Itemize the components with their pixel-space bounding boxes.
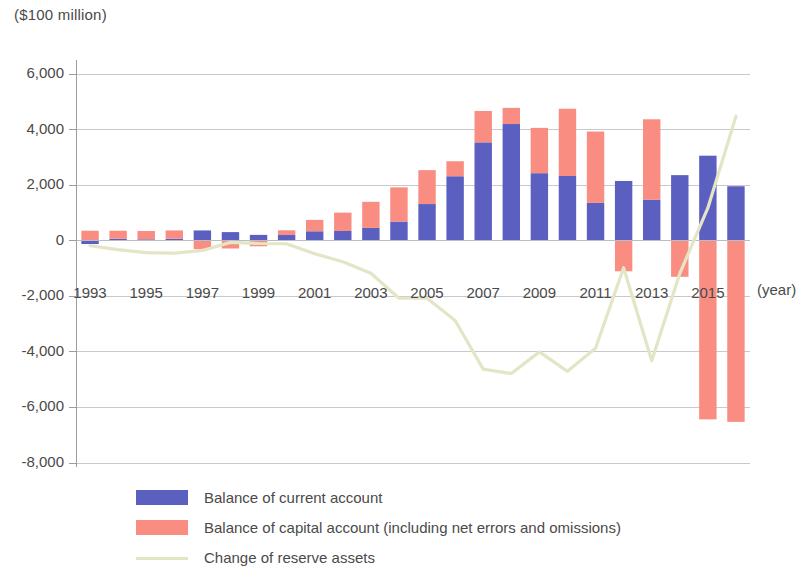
bar-segment — [390, 187, 407, 221]
bar-segment — [109, 231, 126, 239]
bar-segment — [306, 220, 323, 231]
legend-label: Balance of capital account (including ne… — [204, 519, 621, 536]
legend-label: Change of reserve assets — [204, 549, 375, 566]
y-axis-tick-label: -6,000 — [2, 397, 64, 414]
bar-series-group — [76, 108, 750, 422]
bar-segment — [727, 186, 744, 240]
y-axis-tick-label: 2,000 — [2, 175, 64, 192]
bar-segment — [446, 161, 463, 176]
bar-segment — [138, 231, 155, 239]
bar-segment — [390, 222, 407, 241]
bar-segment — [699, 241, 716, 420]
y-axis-tick-label: -4,000 — [2, 342, 64, 359]
x-axis-tick-label: 2003 — [341, 284, 401, 301]
legend-swatch-bar — [136, 490, 188, 505]
bar-segment — [306, 231, 323, 240]
bar-segment — [418, 170, 435, 204]
bar-segment — [250, 235, 267, 241]
bar-segment — [278, 235, 295, 241]
bar-segment — [643, 119, 660, 199]
bar-segment — [81, 231, 98, 241]
reserve-assets-line — [90, 116, 736, 373]
y-axis-tick-label: -8,000 — [2, 453, 64, 470]
bar-segment — [559, 176, 576, 241]
x-axis-tick-label: 1997 — [172, 284, 232, 301]
bar-segment — [587, 203, 604, 241]
legend-item: Balance of current account — [136, 485, 776, 510]
x-axis-tick-label: 2007 — [453, 284, 513, 301]
bar-segment — [222, 232, 239, 241]
bar-segment — [615, 181, 632, 241]
bar-segment — [166, 230, 183, 238]
chart-legend: Balance of current accountBalance of cap… — [136, 485, 776, 568]
line-series-group — [90, 116, 736, 373]
bar-segment — [531, 173, 548, 241]
legend-item: Balance of capital account (including ne… — [136, 515, 776, 540]
bar-segment — [727, 241, 744, 422]
x-axis-tick-label: 2005 — [397, 284, 457, 301]
x-axis-tick-label: 1999 — [229, 284, 289, 301]
bar-segment — [671, 175, 688, 241]
bar-segment — [362, 202, 379, 228]
x-axis-tick-label: 2001 — [285, 284, 345, 301]
bar-segment — [643, 200, 660, 241]
bar-segment — [475, 111, 492, 142]
balance-of-payments-chart: ($100 million) 6,0004,0002,0000-2,000-4,… — [0, 0, 804, 568]
bar-segment — [334, 231, 351, 241]
legend-item: Change of reserve assets — [136, 545, 776, 568]
bar-segment — [699, 156, 716, 241]
x-axis-title: (year) — [757, 281, 796, 298]
bar-segment — [446, 176, 463, 240]
bar-segment — [475, 142, 492, 240]
x-axis-tick-label: 1993 — [60, 284, 120, 301]
bar-segment — [334, 213, 351, 231]
bar-segment — [503, 124, 520, 241]
bar-segment — [418, 204, 435, 241]
legend-label: Balance of current account — [204, 489, 382, 506]
x-axis-tick-label: 1995 — [116, 284, 176, 301]
bar-segment — [503, 108, 520, 124]
bar-segment — [278, 230, 295, 235]
x-axis-tick-label: 2011 — [566, 284, 626, 301]
legend-swatch-line — [136, 550, 188, 565]
y-axis-tick-label: 6,000 — [2, 64, 64, 81]
y-axis-tick-label: -2,000 — [2, 286, 64, 303]
x-axis-tick-label: 2013 — [622, 284, 682, 301]
x-axis-tick-label: 2009 — [509, 284, 569, 301]
x-axis-tick-label: 2015 — [678, 284, 738, 301]
legend-swatch-bar — [136, 520, 188, 535]
bar-segment — [559, 109, 576, 176]
bar-segment — [531, 128, 548, 173]
bar-segment — [362, 228, 379, 241]
bar-segment — [587, 132, 604, 203]
y-axis-tick-label: 0 — [2, 231, 64, 248]
bar-segment — [194, 230, 211, 240]
y-axis-tick-label: 4,000 — [2, 120, 64, 137]
